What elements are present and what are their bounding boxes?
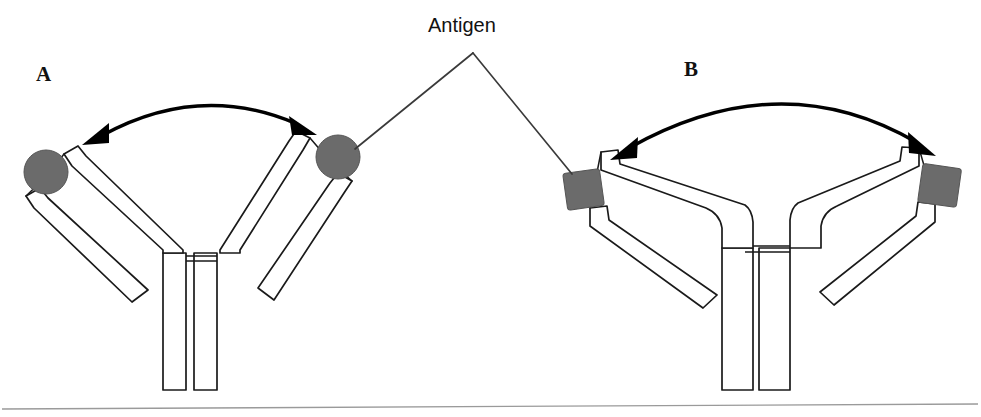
panel-b-antigen-square-left [563, 169, 605, 211]
antigen-leader-lines [355, 53, 572, 174]
panel-b-antibody [563, 147, 962, 390]
antigen-callout-label: Antigen [428, 14, 496, 37]
leader-line-to-panel-a [355, 53, 473, 149]
panel-label-b: B [684, 57, 698, 82]
panel-label-a: A [36, 62, 51, 87]
panel-a-antibody [24, 131, 360, 390]
panel-b-antigen-square-right [918, 163, 962, 207]
panel-a-fc-right-chain [194, 253, 217, 390]
panel-b-arrow-head-left [610, 137, 638, 160]
panel-a-arrow-head-left [82, 123, 109, 145]
panel-b-flexibility-arrow [610, 104, 936, 160]
panel-b-fc-left-chain [722, 248, 753, 390]
figure-baseline-rule [2, 404, 978, 409]
panel-b-arrow-arc [629, 104, 916, 148]
panel-b-fc-right-chain [759, 248, 790, 390]
panel-a-antigen-circle-left [24, 150, 68, 194]
figure-canvas [0, 0, 981, 417]
panel-a-arrow-arc [103, 105, 297, 135]
panel-a-flexibility-arrow [82, 105, 317, 145]
leader-line-to-panel-b [473, 53, 572, 174]
antibody-antigen-figure: A B Antigen [0, 0, 981, 417]
panel-b-right-fab-light [820, 202, 935, 305]
panel-b-arrow-head-right [908, 132, 936, 156]
panel-b-left-fab-light [590, 206, 717, 308]
panel-a-arrow-head-right [289, 116, 317, 135]
panel-a-fc-left-chain [163, 253, 186, 390]
panel-a-antigen-circle-right [316, 135, 360, 179]
